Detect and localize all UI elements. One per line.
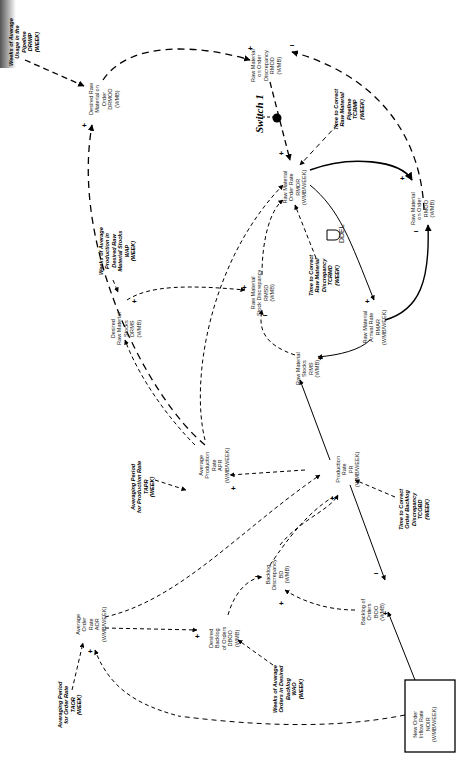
switch-label: Switch 1 — [253, 94, 265, 133]
node-backlog-of-orders: Backlog of Orders BOO (WMB) — [360, 599, 386, 625]
polarity-sign: + — [400, 175, 405, 183]
polarity-sign: + — [88, 648, 93, 656]
node-raw-material-order-rate: Raw Material Order Rate RMOR (WMB/WEEK) — [282, 170, 308, 205]
polarity-sign: − — [255, 573, 260, 581]
polarity-sign: − — [290, 42, 295, 50]
node-desired-raw-material-stocks: Desired Raw Material Stocks DRMS (WMB) — [110, 312, 142, 345]
node-averaging-period-order: Averaging Period for Order Rate TAOR (WE… — [57, 682, 83, 728]
node-time-correct-backlog: Time to Correct Order Backlog Discrepanc… — [398, 489, 430, 530]
causal-loop-diagram: Weeks of Average Usage in the Pipeline D… — [0, 0, 463, 758]
polarity-sign: + — [82, 122, 87, 130]
node-new-order-inflow-rate: New Order Inflow Rate NOIR (WMB/WEEK) — [412, 707, 438, 742]
node-time-correct-rm-discrepancy: Time to Correct Raw Material Discrepancy… — [308, 255, 340, 296]
node-averaging-period-production: Averaging Period for Production Rate TAP… — [130, 461, 156, 513]
polarity-sign: + — [231, 485, 236, 493]
polarity-sign: + — [279, 600, 284, 608]
polarity-sign: + — [330, 495, 335, 503]
polarity-sign: − — [263, 312, 268, 320]
node-raw-material-stock-discrepancy: Raw Material Stock Discrepancy RMSD (WMB… — [250, 270, 276, 316]
node-average-order-rate: Average Order Rate AOR (WMB/WEEK) — [75, 607, 107, 642]
node-time-correct-pipeline: Time to Correct Raw Material Pipeline TC… — [333, 89, 365, 130]
polarity-sign: + — [248, 45, 253, 53]
node-weeks-avg-production: Weeks of Average Production in Desired R… — [98, 227, 136, 275]
node-production-rate: Production Rate PR (WMB/WEEK) — [335, 452, 361, 487]
polarity-sign: + — [195, 633, 200, 641]
node-weeks-avg-orders: Weeks of Average Orders in Desired Backl… — [272, 665, 304, 713]
node-desired-raw-material-on-order: Desired Raw Material on Order DRMOO (WMB… — [88, 83, 120, 115]
delay-label: DDEL — [338, 224, 345, 243]
polarity-sign: − — [414, 228, 419, 236]
polarity-sign: + — [365, 298, 370, 306]
polarity-sign: + — [279, 150, 284, 158]
node-raw-material-on-order: Raw Material on Order RMOO (WMB) — [410, 192, 436, 225]
node-raw-material-arrival-rate: Raw Material Arrival Rate RMAR (WMB/WEEK… — [362, 310, 388, 345]
polarity-sign: − — [374, 570, 379, 578]
node-raw-material-on-order-discrepancy: Raw Material on Order Discrepancy RMOD (… — [250, 49, 282, 82]
polarity-sign: + — [132, 298, 137, 306]
node-backlog-discrepancy: Backlog Discrepancy BD (WMB) — [265, 559, 291, 590]
node-raw-material-stocks: Raw Material Stocks RMS (WMB) — [295, 352, 321, 385]
polarity-sign: + — [242, 284, 247, 292]
polarity-sign: + — [383, 610, 388, 618]
polarity-sign: + — [318, 355, 323, 363]
node-weeks-usage-pipeline: Weeks of Average Usage in the Pipeline D… — [8, 18, 40, 66]
node-average-production-rate: Average Production Rate APR (WMB/WEEK) — [198, 448, 230, 483]
node-desired-backlog: Desired Backlog of Orders DBOO (WMB) — [208, 627, 240, 650]
